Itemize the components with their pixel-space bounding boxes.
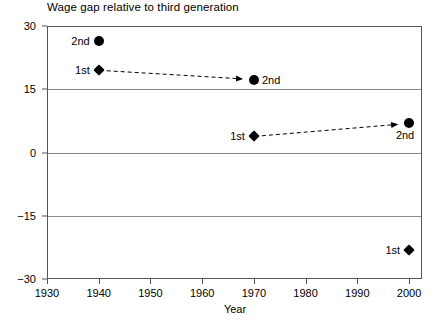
gridline: [48, 216, 421, 217]
data-point-label: 1st: [385, 244, 400, 256]
data-point-label: 1st: [230, 130, 245, 142]
plot-area: [47, 26, 422, 279]
y-tick-label: 30: [0, 20, 36, 32]
data-point-label: 2nd: [396, 129, 414, 141]
x-tick-mark: [254, 279, 255, 284]
x-axis-title: Year: [224, 303, 246, 315]
x-tick-label: 1970: [232, 287, 276, 299]
y-tick-mark: [42, 89, 47, 90]
x-tick-label: 2000: [387, 287, 431, 299]
gridline: [48, 153, 421, 154]
x-tick-mark: [306, 279, 307, 284]
x-tick-label: 1990: [335, 287, 379, 299]
y-tick-label: 15: [0, 83, 36, 95]
y-tick-label: −15: [0, 210, 36, 222]
gridline: [48, 89, 421, 90]
x-tick-label: 1930: [25, 287, 69, 299]
data-point-circle: [94, 36, 104, 46]
chart-title: Wage gap relative to third generation: [47, 1, 239, 13]
x-tick-mark: [150, 279, 151, 284]
x-tick-label: 1980: [284, 287, 328, 299]
x-tick-mark: [409, 279, 410, 284]
x-tick-mark: [99, 279, 100, 284]
data-point-circle: [404, 118, 414, 128]
y-tick-mark: [42, 215, 47, 216]
y-tick-mark: [42, 26, 47, 27]
x-tick-mark: [202, 279, 203, 284]
data-point-label: 1st: [75, 64, 90, 76]
chart-container: Wage gap relative to third generation 30…: [0, 0, 444, 331]
y-tick-label: 0: [0, 147, 36, 159]
x-tick-mark: [357, 279, 358, 284]
data-point-label: 2nd: [71, 35, 89, 47]
x-tick-label: 1960: [180, 287, 224, 299]
x-tick-label: 1940: [77, 287, 121, 299]
x-tick-mark: [47, 279, 48, 284]
y-tick-mark: [42, 152, 47, 153]
y-tick-label: −30: [0, 273, 36, 285]
data-point-label: 2nd: [262, 74, 280, 86]
x-tick-label: 1950: [128, 287, 172, 299]
data-point-circle: [249, 75, 259, 85]
